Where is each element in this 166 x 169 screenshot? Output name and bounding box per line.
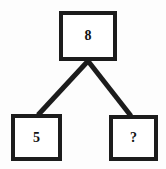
tree-node-left-child-label: 5 [33,131,40,145]
edge-root-to-left [38,61,88,115]
tree-node-root-label: 8 [85,29,92,43]
tree-node-right-child-label: ? [130,131,137,145]
tree-node-root: 8 [59,11,117,61]
tree-diagram: 8 5 ? [0,0,166,169]
edge-root-to-right [88,61,131,116]
tree-node-right-child: ? [109,115,158,161]
tree-node-left-child: 5 [11,114,62,161]
